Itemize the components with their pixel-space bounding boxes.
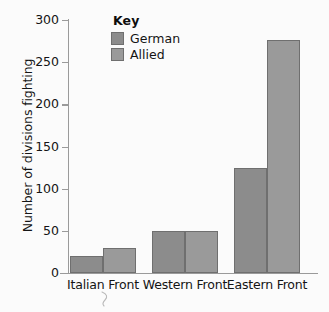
legend-title: Key: [113, 13, 180, 28]
y-tick-label: 300: [35, 12, 59, 27]
legend-entry: German: [111, 31, 180, 45]
legend: Key GermanAllied: [105, 11, 186, 66]
legend-color-swatch: [111, 48, 124, 61]
bar: [234, 168, 267, 273]
legend-entries: GermanAllied: [111, 31, 180, 61]
bar: [185, 231, 218, 273]
bar: [103, 248, 136, 273]
x-axis-label: Eastern Front: [207, 277, 327, 292]
y-tick-label: 150: [35, 139, 59, 154]
y-tick-mark: [62, 273, 68, 274]
bar: [267, 40, 300, 273]
bar: [70, 256, 103, 273]
bar: [152, 231, 185, 273]
legend-color-swatch: [111, 32, 124, 45]
y-tick-label: 50: [43, 223, 59, 238]
y-tick-label: 100: [35, 181, 59, 196]
legend-entry: Allied: [111, 47, 180, 61]
y-tick-label: 250: [35, 54, 59, 69]
y-axis-title: Number of divisions fighting: [20, 31, 35, 261]
bar-chart: Number of divisions fighting 05010015020…: [0, 0, 329, 312]
pencil-squiggle-artifact: [99, 291, 113, 307]
y-tick-label: 200: [35, 96, 59, 111]
legend-entry-label: Allied: [130, 47, 165, 62]
legend-entry-label: German: [130, 31, 180, 46]
